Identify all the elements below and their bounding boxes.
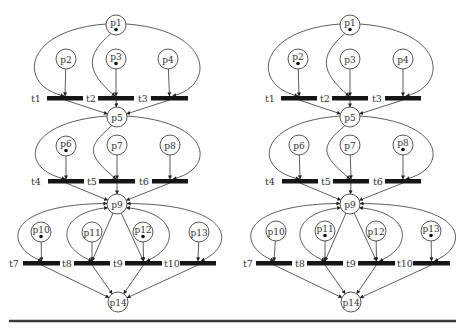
arc-p4-t3 [168,69,169,96]
arc-t9-p14 [357,265,377,294]
transition-bar [98,96,134,101]
arc-t5-p9 [350,183,351,194]
place-p3: p3 [106,49,126,69]
transition-bar [152,179,188,184]
place-label: p6 [60,139,72,149]
place-p10: p10 [266,221,286,241]
place-p7: p7 [340,135,360,155]
token-icon [39,235,43,239]
transition-label: t4 [31,176,41,187]
token-icon [141,235,145,239]
arc-t9-p14 [124,265,144,294]
place-p1: p1 [340,15,360,35]
transition-bar [74,261,110,266]
place-label: p2 [292,52,304,62]
transition-label: t9 [113,258,123,269]
place-p4: p4 [158,49,178,69]
place-label: p1 [110,18,122,28]
transition-label: t2 [320,93,330,104]
place-label: p10 [32,225,49,235]
place-label: p9 [344,200,356,210]
place-p11: p11 [82,222,102,242]
petri-net-left: t1t2t3t4t5t6t7t8t9t10p1p2p3p4p5p6p7p8p9p… [9,15,222,312]
transition-label: t5 [321,176,331,187]
transition-label: t3 [138,93,148,104]
place-p2: p2 [288,49,308,69]
arc-t7-p14 [274,265,342,298]
arc-t8-p14 [325,265,345,294]
arc-p10-t7 [274,241,275,261]
token-icon [296,62,300,66]
token-icon [64,149,68,153]
transition-t10: t10 [164,258,216,269]
place-label: p8 [397,138,409,148]
place-p1: p1 [106,15,126,35]
transition-bar [256,261,292,266]
transition-t9: t9 [113,258,162,269]
transition-bar [358,261,395,266]
place-p6: p6 [56,136,76,156]
transition-label: t9 [346,258,356,269]
place-label: p4 [397,55,409,65]
place-label: p11 [316,224,333,234]
place-p5: p5 [107,107,127,127]
place-label: p12 [134,225,151,235]
transition-t1: t1 [265,93,317,104]
place-p6: p6 [289,135,309,155]
place-p13: p13 [421,221,441,241]
transition-t5: t5 [321,176,369,187]
place-label: p12 [367,227,384,237]
arc-p13-t10 [198,242,199,261]
place-label: p7 [344,141,356,151]
transition-t8: t8 [295,258,343,269]
petri-net-right: t1t2t3t4t5t6t7t8t9t10p1p2p3p4p5p6p7p8p9p… [243,15,456,312]
arc-t10-p14 [127,265,198,298]
place-p9: p9 [340,194,360,214]
transition-bar [413,261,450,266]
token-icon [401,148,405,152]
transition-t4: t4 [265,176,318,187]
arc-t10-p14 [360,265,431,298]
transition-t8: t8 [62,258,110,269]
transition-label: t5 [87,176,97,187]
place-p14: p14 [108,292,128,312]
arc-p2-t1 [298,69,299,96]
place-p2: p2 [56,49,76,69]
place-p13: p13 [189,222,209,242]
token-icon [348,28,352,32]
transition-label: t8 [62,258,72,269]
transition-bar [281,96,317,101]
place-p3: p3 [340,49,360,69]
transition-label: t1 [265,93,275,104]
transition-t9: t9 [346,258,395,269]
transition-t4: t4 [31,176,84,187]
transition-label: t7 [9,258,19,269]
transition-label: t7 [243,258,253,269]
arc-p7-t5 [350,155,351,179]
place-p4: p4 [393,49,413,69]
place-p7: p7 [107,135,127,155]
token-icon [429,234,433,238]
place-label: p4 [162,55,174,65]
place-label: p11 [83,228,100,238]
transition-t5: t5 [87,176,135,187]
transition-bar [385,96,421,101]
place-label: p6 [293,141,305,151]
place-label: p2 [60,55,72,65]
petri-net-figure: t1t2t3t4t5t6t7t8t9t10p1p2p3p4p5p6p7p8p9p… [0,0,465,331]
transition-bar [307,261,343,266]
transition-t1: t1 [31,93,83,104]
place-label: p7 [111,141,123,151]
place-label: p9 [111,200,123,210]
transition-label: t6 [139,176,149,187]
transition-t7: t7 [243,258,292,269]
token-icon [114,28,118,32]
transition-t10: t10 [397,258,450,269]
transition-bar [48,179,84,184]
place-p9: p9 [107,194,127,214]
transition-label: t10 [397,258,413,269]
place-p14: p14 [341,292,361,312]
transition-bar [282,179,318,184]
transition-bar [125,261,162,266]
place-label: p5 [344,113,356,123]
